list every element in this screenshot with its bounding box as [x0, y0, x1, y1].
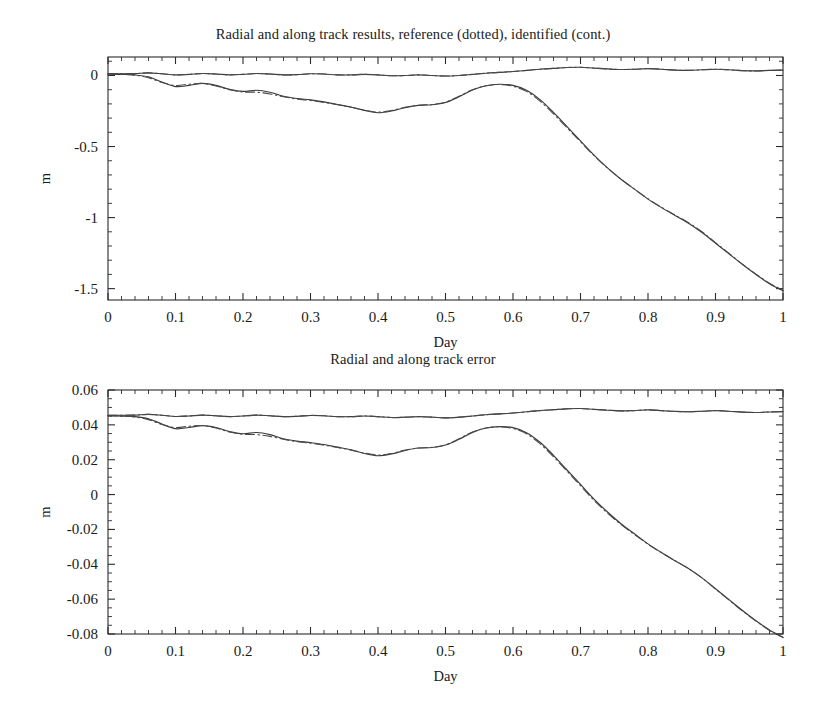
x-tick-label: 0.4 — [369, 643, 388, 659]
y-tick-label: 0.06 — [72, 382, 99, 398]
x-tick-label: 0.6 — [504, 643, 523, 659]
series-line — [108, 67, 783, 76]
plot-area-top: 00.10.20.30.40.50.60.70.80.910-0.5-1-1.5… — [0, 0, 826, 352]
series-line — [108, 408, 783, 417]
x-tick-label: 1 — [779, 309, 787, 325]
panel-radial-along-track-results: Radial and along track results, referenc… — [0, 0, 826, 352]
y-tick-label: -0.04 — [67, 556, 99, 572]
x-tick-label: 0.4 — [369, 309, 388, 325]
x-axis-title: Day — [433, 334, 458, 350]
x-tick-label: 0.6 — [504, 309, 523, 325]
y-axis-title: m — [37, 506, 53, 518]
x-tick-label: 1 — [779, 643, 787, 659]
x-tick-label: 0.3 — [301, 309, 320, 325]
x-tick-label: 0.2 — [234, 643, 253, 659]
panel-radial-along-track-error: Radial and along track error 00.10.20.30… — [0, 352, 826, 709]
series-line — [108, 67, 783, 76]
y-tick-label: 0 — [91, 67, 99, 83]
x-tick-label: 0.3 — [301, 643, 320, 659]
y-tick-label: -0.08 — [67, 626, 98, 642]
series-line — [108, 416, 783, 638]
series-line — [108, 408, 783, 417]
x-tick-label: 0.5 — [436, 643, 455, 659]
y-tick-label: -1 — [86, 210, 99, 226]
plot-area-bottom: 00.10.20.30.40.50.60.70.80.910.060.040.0… — [0, 352, 826, 709]
series-line — [108, 74, 783, 290]
x-axis-title: Day — [433, 668, 458, 684]
x-tick-label: 0.5 — [436, 309, 455, 325]
y-tick-label: -1.5 — [74, 281, 98, 297]
x-tick-label: 0.7 — [571, 309, 590, 325]
x-tick-label: 0.7 — [571, 643, 590, 659]
figure-two-panel-track-results: Radial and along track results, referenc… — [0, 0, 826, 709]
series-line — [108, 74, 783, 291]
y-tick-label: 0.04 — [72, 417, 99, 433]
x-tick-label: 0.1 — [166, 643, 185, 659]
y-tick-label: 0.02 — [72, 452, 98, 468]
x-tick-label: 0.8 — [639, 643, 658, 659]
x-tick-label: 0 — [104, 643, 112, 659]
y-tick-label: 0 — [91, 487, 99, 503]
x-tick-label: 0 — [104, 309, 112, 325]
series-line — [108, 416, 783, 638]
x-tick-label: 0.9 — [706, 643, 725, 659]
x-tick-label: 0.1 — [166, 309, 185, 325]
y-axis-title: m — [37, 172, 53, 184]
y-tick-label: -0.02 — [67, 521, 98, 537]
x-tick-label: 0.2 — [234, 309, 253, 325]
y-tick-label: -0.5 — [74, 139, 98, 155]
x-tick-label: 0.8 — [639, 309, 658, 325]
x-tick-label: 0.9 — [706, 309, 725, 325]
y-tick-label: -0.06 — [67, 591, 99, 607]
